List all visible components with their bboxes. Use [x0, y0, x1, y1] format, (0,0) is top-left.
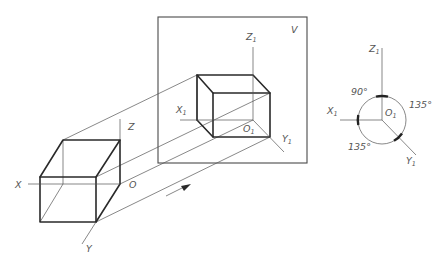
y-axis — [82, 222, 96, 244]
projection-diagram: V X Z Y O X1 Z1 Y1 — [0, 0, 442, 264]
diagram-y1-label: Y1 — [406, 155, 416, 168]
angle-135-bottom-label: 135° — [348, 141, 371, 152]
projected-cube — [197, 75, 270, 137]
angle-90-label: 90° — [351, 86, 368, 97]
origin-label: O — [129, 179, 137, 190]
axis-angle-diagram — [340, 48, 416, 155]
y1-axis-label: Y1 — [282, 133, 292, 146]
y1-axis — [253, 120, 284, 152]
angle-135-right-label: 135° — [409, 99, 432, 110]
y-axis-label: Y — [86, 243, 93, 254]
space-cube — [40, 140, 120, 222]
diagram-o1-label: O1 — [385, 107, 397, 120]
arrowhead-icon — [181, 184, 191, 191]
diagram-z1-label: Z1 — [368, 43, 380, 56]
z-axis-label: Z — [127, 121, 135, 132]
v-plane-label: V — [291, 24, 299, 35]
z1-axis-label: Z1 — [245, 31, 257, 44]
o1-origin-label: O1 — [243, 123, 255, 136]
projection-lines — [63, 75, 270, 222]
x-axis-label: X — [14, 179, 22, 190]
x1-axis-label: X1 — [175, 104, 187, 117]
space-axes — [28, 119, 120, 244]
diagram-x1-label: X1 — [326, 105, 338, 118]
